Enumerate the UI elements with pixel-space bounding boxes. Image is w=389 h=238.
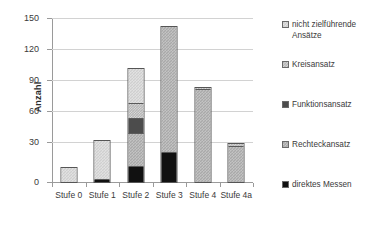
legend-label: Funktionsansatz bbox=[292, 100, 352, 111]
legend-item-rechteckansatz[interactable]: Rechteckansatz bbox=[282, 140, 350, 151]
legend-label: direktes Messen bbox=[292, 180, 352, 191]
plot-area: 150 120 90 60 30 0 bbox=[52, 18, 253, 183]
legend-label: nicht zielführende Ansätze bbox=[292, 20, 387, 41]
segment-nicht-zielfuehrende bbox=[128, 69, 143, 104]
bar-column-stufe-4a bbox=[220, 18, 254, 183]
stacked-bar[interactable] bbox=[127, 68, 144, 184]
dark-gray-swatch-icon bbox=[282, 101, 289, 108]
black-swatch-icon bbox=[282, 181, 289, 188]
x-axis-label-stufe-4a: Stufe 4a bbox=[213, 190, 259, 200]
x-tick-5 bbox=[220, 183, 221, 187]
chart-container: Anzahl 150 120 90 60 30 0 bbox=[0, 0, 389, 238]
bar-column-stufe-0 bbox=[52, 18, 86, 183]
bar-column-stufe-2 bbox=[119, 18, 153, 183]
fine-checker-swatch-icon bbox=[282, 141, 289, 148]
bar-column-stufe-1 bbox=[86, 18, 120, 183]
y-tick-label-30: 30 bbox=[29, 137, 39, 147]
segment-nicht-zielfuehrende bbox=[95, 141, 110, 180]
x-tick-2 bbox=[119, 183, 120, 187]
segment-rechteckansatz bbox=[195, 90, 210, 182]
legend-label: Rechteckansatz bbox=[292, 140, 350, 151]
segment-kreisansatz bbox=[128, 104, 143, 119]
x-tick-3 bbox=[153, 183, 154, 187]
x-tick-0 bbox=[52, 183, 53, 187]
bar-column-stufe-3 bbox=[153, 18, 187, 183]
stacked-bar[interactable] bbox=[228, 143, 245, 183]
y-tick-label-120: 120 bbox=[24, 44, 39, 54]
segment-rechteckansatz bbox=[229, 147, 244, 182]
bar-column-stufe-4 bbox=[186, 18, 220, 183]
legend-item-nicht-zielfuehrende-ansaetze[interactable]: nicht zielführende Ansätze bbox=[282, 20, 387, 41]
segment-direktes-messen bbox=[162, 153, 177, 182]
stacked-bar[interactable] bbox=[94, 140, 111, 183]
bar-series-group bbox=[52, 18, 253, 183]
segment-direktes-messen bbox=[128, 167, 143, 182]
segment-rechteckansatz bbox=[128, 134, 143, 166]
segment-direktes-messen bbox=[95, 180, 110, 182]
y-tick-label-60: 60 bbox=[29, 106, 39, 116]
stacked-bar[interactable] bbox=[161, 26, 178, 183]
legend-item-kreisansatz[interactable]: Kreisansatz bbox=[282, 60, 335, 71]
segment-nicht-zielfuehrende bbox=[61, 168, 76, 183]
y-tick-label-150: 150 bbox=[24, 13, 39, 23]
stacked-bar[interactable] bbox=[60, 167, 77, 184]
stacked-bar[interactable] bbox=[194, 87, 211, 183]
checker-swatch-icon bbox=[282, 61, 289, 68]
segment-rechteckansatz bbox=[162, 27, 177, 153]
segment-funktionsansatz bbox=[128, 119, 143, 134]
legend-label: Kreisansatz bbox=[292, 60, 335, 71]
legend-item-funktionsansatz[interactable]: Funktionsansatz bbox=[282, 100, 352, 111]
x-tick-6 bbox=[253, 183, 254, 187]
y-tick-label-0: 0 bbox=[34, 177, 39, 187]
y-tick-label-90: 90 bbox=[29, 75, 39, 85]
x-tick-1 bbox=[86, 183, 87, 187]
x-tick-4 bbox=[186, 183, 187, 187]
light-checker-swatch-icon bbox=[282, 21, 289, 28]
legend-item-direktes-messen[interactable]: direktes Messen bbox=[282, 180, 352, 191]
